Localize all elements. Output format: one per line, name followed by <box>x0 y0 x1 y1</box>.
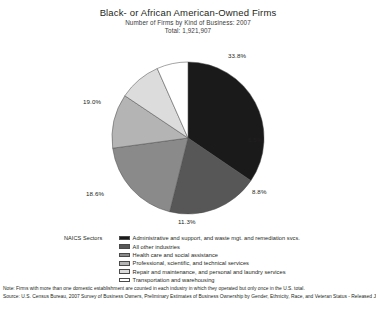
legend-item-label: Transportation and warehousing <box>133 277 215 283</box>
legend-item[interactable]: Administrative and support, and waste mg… <box>119 234 300 242</box>
slice-value-label-professional: 11.3% <box>178 218 196 225</box>
chart-subtitle-line-2: Total: 1,921,907 <box>0 27 376 35</box>
legend-color-swatch <box>119 278 130 283</box>
legend-item[interactable]: Transportation and warehousing <box>119 276 300 284</box>
legend-item-label: Administrative and support, and waste mg… <box>133 235 300 241</box>
legend-color-swatch <box>119 236 130 241</box>
legend-item[interactable]: Repair and maintenance, and personal and… <box>119 268 300 276</box>
pie-chart-figure: Black- or African American-Owned Firms N… <box>0 0 376 311</box>
slice-value-label-health-care: 18.6% <box>86 190 104 197</box>
legend-color-swatch <box>119 253 130 258</box>
legend-item-label: Repair and maintenance, and personal and… <box>133 269 286 275</box>
pie-slice-group <box>112 62 264 214</box>
legend-color-swatch <box>119 269 130 274</box>
legend-item-label: Health care and social assistance <box>133 252 218 258</box>
chart-subtitle-line-1: Number of Firms by Kind of Business: 200… <box>0 19 376 27</box>
legend-color-swatch <box>119 244 130 249</box>
legend-item[interactable]: Health care and social assistance <box>119 251 300 259</box>
legend-item[interactable]: All other industries <box>119 242 300 250</box>
legend-title: NAICS Sectors <box>64 235 102 241</box>
legend-color-swatch <box>119 261 130 266</box>
slice-value-label-administrative: 33.8% <box>228 52 246 59</box>
legend-item[interactable]: Professional, scientific, and technical … <box>119 259 300 267</box>
legend-item-label: All other industries <box>133 244 180 250</box>
slice-value-label-all-other: 19.0% <box>83 98 101 105</box>
slice-value-label-repair: 8.8% <box>252 188 267 195</box>
pie-svg <box>108 48 268 228</box>
pie-plot-area <box>108 48 268 228</box>
footnote-source: Source: U.S. Census Bureau, 2007 Survey … <box>3 293 373 301</box>
legend-item-label: Professional, scientific, and technical … <box>133 260 249 266</box>
legend-item-list: Administrative and support, and waste mg… <box>119 234 300 284</box>
page-title: Black- or African American-Owned Firms <box>0 7 376 19</box>
slice-value-label-transportation: 6.5% <box>248 136 263 143</box>
chart-header: Black- or African American-Owned Firms N… <box>0 7 376 35</box>
footnote-note: Note: Firms with more than one domestic … <box>3 285 373 293</box>
footnotes: Note: Firms with more than one domestic … <box>3 285 373 300</box>
